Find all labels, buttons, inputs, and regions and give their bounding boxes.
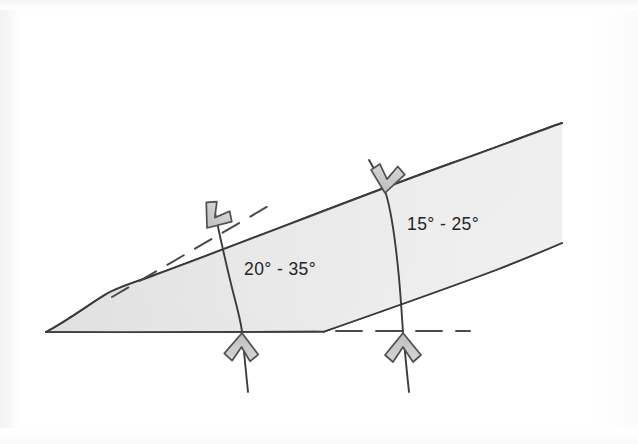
band-fill-extension bbox=[104, 123, 562, 332]
arrow-lower-left bbox=[224, 332, 259, 361]
lower-angle-range-label: 20° - 35° bbox=[244, 259, 316, 279]
diagram-canvas: 20° - 35° 15° - 25° bbox=[0, 0, 638, 444]
slope-diagram-svg: 20° - 35° 15° - 25° bbox=[0, 0, 638, 444]
ground-surface-restroke bbox=[46, 332, 324, 333]
arrow-lower-right bbox=[385, 333, 421, 362]
arrow-upper-left bbox=[194, 197, 236, 238]
upper-angle-range-label: 15° - 25° bbox=[407, 214, 479, 234]
